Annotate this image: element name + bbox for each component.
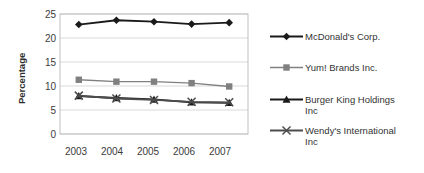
x-tick-label-2007: 2007 (209, 146, 232, 157)
legend-entry-mcdonalds: McDonald's Corp. (305, 31, 380, 42)
chart-canvas: Percentage 25 20 15 10 5 0 2003 2004 200… (0, 0, 424, 173)
y-axis-title: Percentage (16, 53, 27, 104)
legend-label-wendys: Wendy's International (305, 125, 396, 136)
data-point-yum-brands-inc-2006 (188, 80, 194, 86)
data-point-yum-brands-inc-2007 (226, 83, 232, 89)
legend-label-wendys-line2: Inc (305, 136, 318, 147)
y-tick-label-10: 10 (45, 81, 57, 92)
legend-label-burger-king: Burger King Holdings (305, 94, 395, 105)
y-tick-label-15: 15 (45, 57, 57, 68)
y-tick-label-25: 25 (45, 9, 57, 20)
data-point-yum-brands-inc-2003 (76, 77, 82, 83)
x-tick-label-2006: 2006 (173, 146, 196, 157)
legend-symbol-yum-brands-inc (283, 64, 289, 70)
legend-label-yum: Yum! Brands Inc. (305, 62, 377, 73)
data-point-yum-brands-inc-2004 (113, 78, 119, 84)
line-chart: Percentage 25 20 15 10 5 0 2003 2004 200… (0, 0, 424, 173)
x-tick-label-2005: 2005 (137, 146, 160, 157)
x-tick-label-2003: 2003 (65, 146, 88, 157)
y-tick-label-5: 5 (50, 105, 56, 116)
y-axis-title-text: Percentage (16, 53, 27, 104)
legend-label-burger-king-line2: Inc (305, 105, 318, 116)
y-tick-label-20: 20 (45, 33, 57, 44)
legend-label-mcdonalds: McDonald's Corp. (305, 31, 380, 42)
y-tick-label-0: 0 (50, 129, 56, 140)
data-point-yum-brands-inc-2005 (151, 78, 157, 84)
legend-entry-yum: Yum! Brands Inc. (305, 62, 377, 73)
x-tick-label-2004: 2004 (101, 146, 124, 157)
